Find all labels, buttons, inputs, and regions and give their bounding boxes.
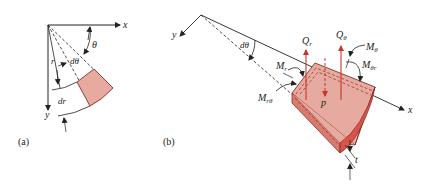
Mr-arrow xyxy=(288,68,303,76)
y-axis-b xyxy=(180,15,201,36)
Mtheta-arrow xyxy=(350,45,365,56)
Mrtheta-arrow xyxy=(276,84,296,91)
x-axis-label-a: x xyxy=(122,19,128,30)
theta-label: θ xyxy=(92,39,97,50)
x-axis-label-b: x xyxy=(407,104,413,115)
p-label: p xyxy=(320,97,326,108)
element-a xyxy=(77,69,113,106)
dr-label: dr xyxy=(58,96,67,106)
y-axis-label-a: y xyxy=(44,109,50,120)
y-axis-label-b: y xyxy=(171,29,177,40)
dtheta-arc-b xyxy=(249,40,255,60)
panel-b: y x dθ Qr Qθ p Mθ xyxy=(163,15,413,180)
t-label: t xyxy=(355,154,358,165)
r-label: r xyxy=(51,56,55,66)
caption-b: (b) xyxy=(163,136,175,148)
outer-arc xyxy=(58,106,90,116)
inner-arc xyxy=(52,82,77,90)
Qr-label: Qr xyxy=(302,35,312,48)
Mr-label: Mr xyxy=(275,60,287,73)
Mrtheta-label: Mrθ xyxy=(257,92,273,105)
dtheta-label-a: dθ xyxy=(70,56,80,66)
radial-dashed-line-b xyxy=(201,15,295,97)
Mtheta-label: Mθ xyxy=(365,41,378,54)
caption-a: (a) xyxy=(18,136,29,148)
Mthetar-label: Mθr xyxy=(361,59,377,72)
r-arrow xyxy=(57,70,58,84)
plate-element-diagram: x y θ r dθ dr (a) y xyxy=(0,0,430,188)
dtheta-label-b: dθ xyxy=(240,40,250,50)
dtheta-arrow-a xyxy=(58,63,66,66)
panel-a: x y θ r dθ dr (a) xyxy=(18,19,128,148)
Qtheta-label: Qθ xyxy=(336,29,347,42)
dr-arrow xyxy=(64,118,66,132)
